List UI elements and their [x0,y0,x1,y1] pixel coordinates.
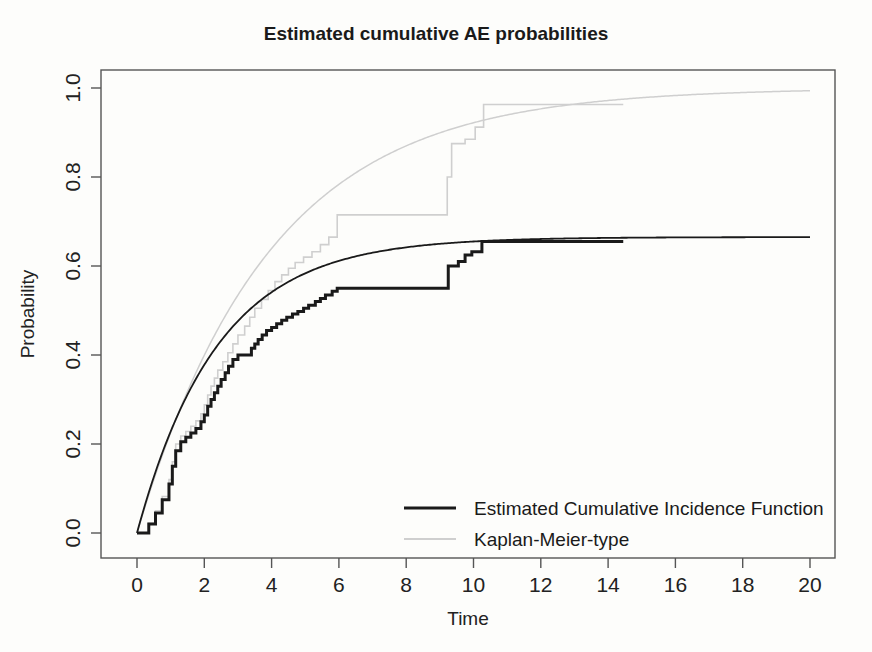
chart-page: Estimated cumulative AE probabilities 0.… [0,0,872,652]
chart-background [0,0,872,652]
x-tick-label: 18 [731,573,754,596]
chart-canvas: Estimated cumulative AE probabilities 0.… [0,0,872,652]
x-tick-label: 0 [131,573,143,596]
x-tick-label: 10 [462,573,485,596]
x-tick-label: 12 [529,573,552,596]
y-tick-label: 1.0 [61,73,84,102]
y-tick-label: 0.0 [61,518,84,547]
x-tick-label: 6 [333,573,345,596]
x-tick-label: 8 [400,573,412,596]
y-tick-label: 0.6 [61,251,84,280]
x-tick-label: 14 [596,573,620,596]
y-tick-label: 0.4 [61,340,84,370]
y-tick-label: 0.2 [61,429,84,458]
legend-label-1: Kaplan-Meier-type [474,529,629,550]
x-tick-label: 2 [198,573,210,596]
x-axis-label: Time [447,608,489,629]
x-tick-label: 20 [798,573,821,596]
x-tick-label: 4 [266,573,278,596]
legend-label-0: Estimated Cumulative Incidence Function [474,498,824,519]
y-tick-label: 0.8 [61,162,84,191]
x-tick-label: 16 [664,573,687,596]
y-axis-label: Probability [17,269,38,358]
page-title: Estimated cumulative AE probabilities [264,23,609,44]
